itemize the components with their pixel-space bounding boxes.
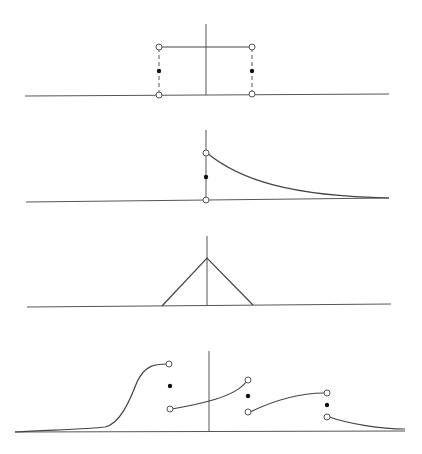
open-endpoint-circle [249, 91, 255, 97]
panel-one-sided-exponential [26, 130, 389, 203]
open-endpoint-circle [203, 150, 209, 156]
open-endpoint-circle [249, 44, 255, 50]
panel-triangle [27, 236, 391, 307]
open-endpoint-circle [245, 409, 251, 415]
open-endpoint-circle [245, 377, 251, 383]
horizontal-axis [27, 304, 391, 307]
panel-piecewise-with-jumps [15, 351, 405, 432]
open-endpoint-circle [166, 361, 172, 367]
open-endpoint-circle [324, 390, 330, 396]
panel-rectangular-pulse [25, 24, 389, 98]
function-curve [329, 417, 405, 429]
function-curve [15, 364, 167, 432]
midpoint-dot [246, 394, 250, 398]
open-endpoint-circle [324, 414, 330, 420]
figure-canvas [0, 0, 422, 454]
open-endpoint-circle [203, 197, 209, 203]
open-endpoint-circle [156, 92, 162, 98]
midpoint-dot [204, 175, 208, 179]
function-curve [207, 153, 389, 198]
midpoint-dot [168, 384, 172, 388]
open-endpoint-circle [156, 44, 162, 50]
horizontal-axis [25, 94, 389, 96]
midpoint-dot [325, 403, 329, 407]
function-curve [250, 393, 324, 412]
open-endpoint-circle [167, 406, 173, 412]
horizontal-axis [15, 431, 405, 432]
midpoint-dot [250, 69, 254, 73]
midpoint-dot [157, 69, 161, 73]
